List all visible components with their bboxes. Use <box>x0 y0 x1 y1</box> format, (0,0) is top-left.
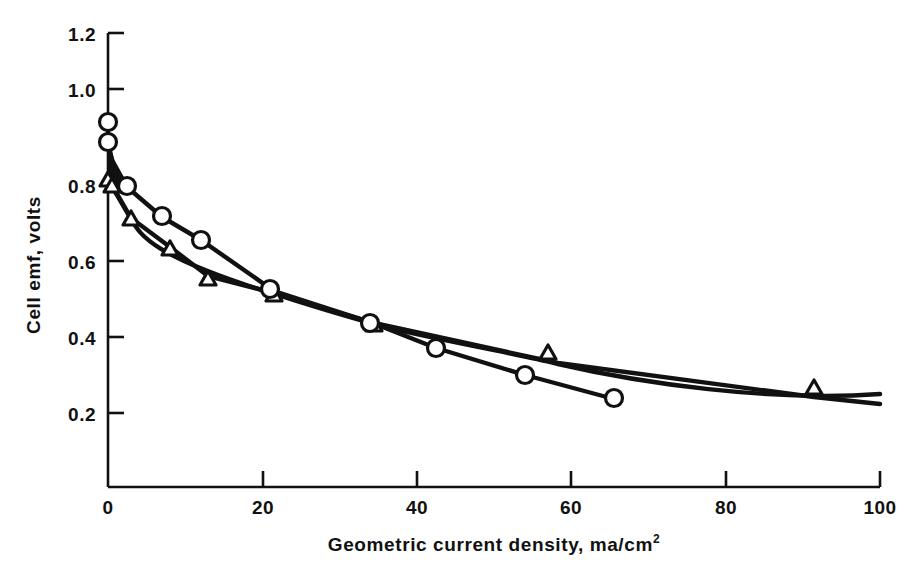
y-axis-ticks <box>108 33 124 413</box>
circle-marker-9 <box>606 390 623 407</box>
x-axis-title: Geometric current density, ma/cm2 <box>328 532 660 555</box>
circle-marker-4 <box>193 232 210 249</box>
triangle-markers <box>100 172 822 394</box>
y-tick-labels: 1.2 1.0 0.8 0.6 0.4 0.2 <box>68 24 96 425</box>
x-tick-label-60: 60 <box>560 497 582 518</box>
x-axis-title-superscript: 2 <box>653 532 660 546</box>
x-tick-label-100: 100 <box>863 497 896 518</box>
circle-marker-6 <box>362 315 379 332</box>
x-tick-label-20: 20 <box>252 497 274 518</box>
circle-marker-5 <box>262 281 279 298</box>
y-tick-label-0.4: 0.4 <box>68 328 96 349</box>
circle-marker-3 <box>154 208 171 225</box>
x-axis-ticks <box>263 471 880 487</box>
x-tick-label-80: 80 <box>715 497 737 518</box>
y-tick-label-0.6: 0.6 <box>68 252 96 273</box>
circle-marker-8 <box>517 367 534 384</box>
circle-marker-1 <box>100 134 117 151</box>
y-tick-label-0.8: 0.8 <box>68 176 96 197</box>
x-tick-label-0: 0 <box>102 497 113 518</box>
triangle-series-line <box>108 179 880 404</box>
y-tick-label-0.2: 0.2 <box>68 404 96 425</box>
x-axis-title-text: Geometric current density, ma/cm <box>328 534 653 555</box>
circle-marker-7 <box>428 340 445 357</box>
y-axis-title: Cell emf, volts <box>23 196 44 334</box>
circle-marker-2 <box>119 178 136 195</box>
triangle-marker-8 <box>806 380 822 394</box>
chart-figure: 1.2 1.0 0.8 0.6 0.4 0.2 0 20 40 60 80 10… <box>0 0 905 571</box>
y-tick-label-1.2: 1.2 <box>68 24 96 45</box>
x-tick-labels: 0 20 40 60 80 100 <box>102 497 896 518</box>
axis-lines <box>108 33 880 487</box>
triangle-marker-7 <box>540 345 556 359</box>
x-tick-label-40: 40 <box>406 497 428 518</box>
circle-marker-0 <box>100 114 117 131</box>
y-tick-label-1.0: 1.0 <box>68 80 96 101</box>
chart-svg: 1.2 1.0 0.8 0.6 0.4 0.2 0 20 40 60 80 10… <box>0 0 905 571</box>
